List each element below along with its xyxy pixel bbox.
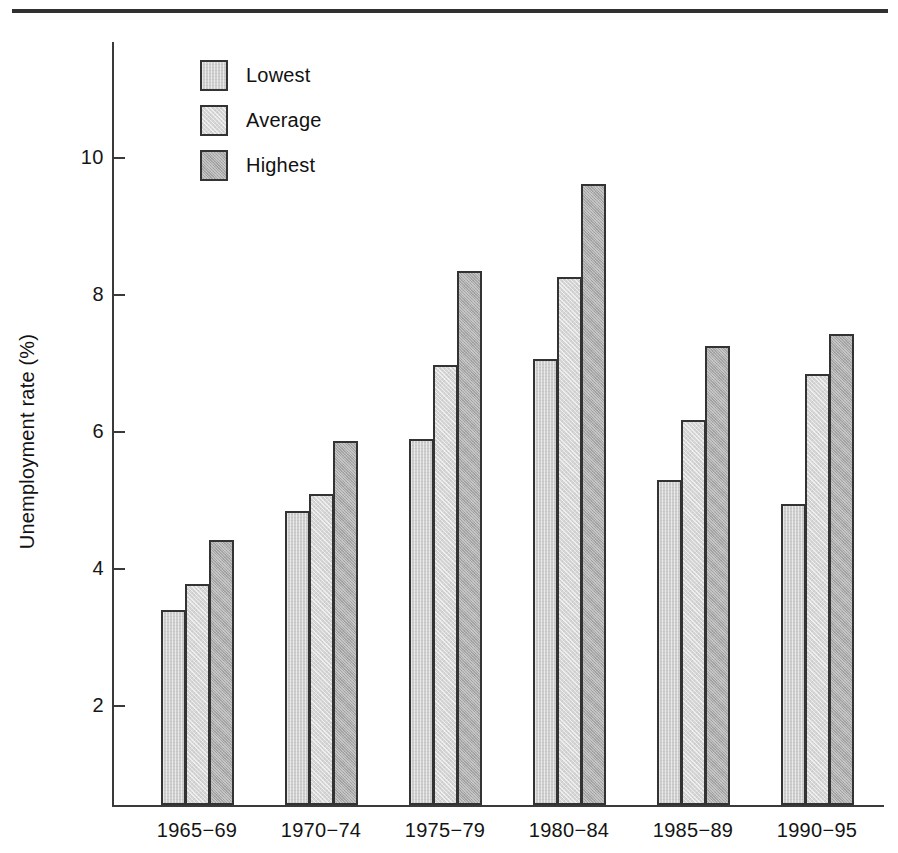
bar-lowest-1980-84 [533,359,558,805]
y-axis-tick-label-wrap: 10 [30,147,104,167]
y-axis-tick-label: 6 [40,421,104,441]
y-axis-tick-label-wrap: 4 [30,558,104,578]
top-divider-rule [12,9,888,13]
bar-highest-1970-74 [333,441,358,805]
bar-lowest-1975-79 [409,439,434,805]
x-axis-tick-label: 1990−95 [737,818,897,842]
y-axis-tick-label: 4 [40,558,104,578]
y-axis-tick-label-wrap: 8 [30,284,104,304]
y-axis-tick-label: 10 [40,147,104,167]
y-axis-tick [114,705,125,707]
bar-highest-1985-89 [705,346,730,805]
legend-label-lowest: Lowest [246,62,311,88]
y-axis-tick-label-wrap: 6 [30,421,104,441]
y-axis-tick [114,431,125,433]
legend-swatch-lowest [200,60,228,91]
bar-highest-1965-69 [209,540,234,805]
unemployment-rate-bar-chart: Unemployment rate (%) 246810 1965−691970… [0,0,898,853]
bar-lowest-1985-89 [657,480,682,805]
y-axis-tick-label-wrap: 2 [30,695,104,715]
legend-swatch-highest [200,150,228,181]
y-axis-tick [114,568,125,570]
legend-label-highest: Highest [246,152,315,178]
bar-highest-1980-84 [581,184,606,805]
y-axis-tick-label: 2 [40,695,104,715]
bar-lowest-1965-69 [161,610,186,805]
y-axis-tick [114,294,125,296]
bar-lowest-1990-95 [781,504,806,805]
x-axis-line [112,805,884,807]
bar-average-1975-79 [433,365,458,805]
bar-average-1990-95 [805,374,830,805]
legend-swatch-average [200,105,228,136]
bar-lowest-1970-74 [285,511,310,805]
legend-label-average: Average [246,107,322,133]
y-axis-tick-label: 8 [40,284,104,304]
bar-average-1970-74 [309,494,334,805]
bar-average-1980-84 [557,277,582,805]
bar-highest-1990-95 [829,334,854,805]
bar-average-1985-89 [681,420,706,805]
bar-average-1965-69 [185,584,210,805]
bar-highest-1975-79 [457,271,482,805]
y-axis-tick [114,157,125,159]
